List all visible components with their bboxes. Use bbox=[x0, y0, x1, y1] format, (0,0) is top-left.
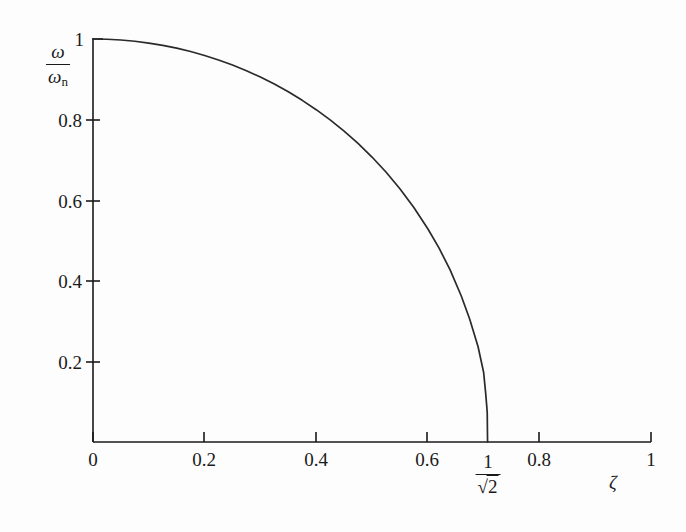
y-axis-title-numerator: ω bbox=[46, 42, 70, 63]
y-axis-title-denominator-subscript: n bbox=[61, 74, 68, 89]
x-axis-ticks bbox=[93, 432, 651, 442]
y-axis-title-denominator: ωn bbox=[46, 66, 70, 89]
x-tick-label-1: 0.2 bbox=[192, 450, 216, 469]
y-tick-label-02: 0.2 bbox=[58, 353, 82, 372]
plot-area bbox=[0, 0, 686, 532]
y-tick-label-08: 0.8 bbox=[58, 111, 82, 130]
special-label-denominator: √2 bbox=[476, 476, 501, 497]
y-tick-label-06: 0.6 bbox=[58, 192, 82, 211]
x-tick-label-4: 0.8 bbox=[527, 450, 551, 469]
x-axis-special-label-one-over-sqrt-two: 1 √2 bbox=[476, 452, 501, 497]
x-tick-label-2: 0.4 bbox=[304, 450, 328, 469]
x-tick-label-3: 0.6 bbox=[415, 450, 439, 469]
x-tick-label-0: 0 bbox=[88, 450, 98, 469]
y-axis-title-denominator-symbol: ω bbox=[48, 66, 61, 87]
special-label-numerator: 1 bbox=[476, 452, 501, 473]
fraction-bar bbox=[46, 64, 70, 65]
y-tick-label-1: 1 bbox=[75, 30, 85, 49]
y-axis-title: ω ωn bbox=[46, 42, 70, 88]
data-curve-omega-ratio bbox=[93, 39, 488, 442]
y-tick-label-04: 0.4 bbox=[58, 272, 82, 291]
y-axis-ticks bbox=[86, 39, 103, 362]
figure-canvas: 0 0.2 0.4 0.6 0.8 1 1 0.8 0.6 0.4 0.2 ω … bbox=[0, 0, 686, 532]
x-axis-title: ζ bbox=[609, 473, 617, 492]
radicand: 2 bbox=[487, 475, 499, 497]
x-tick-label-5: 1 bbox=[646, 450, 656, 469]
